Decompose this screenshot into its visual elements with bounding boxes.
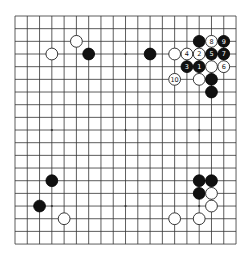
black-stone[interactable] <box>193 187 205 199</box>
white-stone[interactable] <box>193 73 205 85</box>
white-stone[interactable] <box>71 35 83 47</box>
white-stone-disc <box>206 187 218 199</box>
move-number-label: 10 <box>170 76 178 84</box>
white-stone-disc <box>206 61 218 73</box>
black-stone[interactable] <box>206 175 218 187</box>
black-stone[interactable] <box>206 86 218 98</box>
star-point <box>124 53 126 55</box>
black-stone[interactable] <box>46 175 58 187</box>
move-number-label: 9 <box>222 38 226 46</box>
star-point <box>198 129 200 131</box>
black-stone-disc <box>34 200 46 212</box>
star-point <box>51 129 53 131</box>
white-stone-disc <box>193 213 205 225</box>
white-stone[interactable] <box>206 187 218 199</box>
white-stone-disc <box>206 200 218 212</box>
white-stone-disc <box>193 73 205 85</box>
black-stone-disc <box>83 48 95 60</box>
white-stone[interactable] <box>193 213 205 225</box>
white-stone-disc <box>169 213 181 225</box>
white-stone[interactable] <box>58 213 70 225</box>
black-stone[interactable] <box>34 200 46 212</box>
white-stone[interactable]: 6 <box>218 61 230 73</box>
move-number-label: 6 <box>222 63 226 71</box>
black-stone[interactable]: 1 <box>193 61 205 73</box>
black-stone[interactable] <box>193 175 205 187</box>
move-number-label: 8 <box>209 38 213 46</box>
white-stone[interactable] <box>169 48 181 60</box>
white-stone[interactable]: 10 <box>169 73 181 85</box>
black-stone-disc <box>144 48 156 60</box>
white-stone-disc <box>46 48 58 60</box>
black-stone[interactable]: 5 <box>206 48 218 60</box>
white-stone-disc <box>71 35 83 47</box>
white-stone[interactable] <box>206 61 218 73</box>
white-stone[interactable]: 4 <box>181 48 193 60</box>
white-stone[interactable] <box>206 200 218 212</box>
star-point <box>124 205 126 207</box>
white-stone-disc <box>58 213 70 225</box>
white-stone[interactable]: 2 <box>193 48 205 60</box>
black-stone-disc <box>193 35 205 47</box>
star-point <box>198 205 200 207</box>
black-stone-disc <box>206 86 218 98</box>
black-stone[interactable] <box>206 73 218 85</box>
black-stone[interactable] <box>193 35 205 47</box>
white-stone[interactable] <box>46 48 58 60</box>
move-number-label: 5 <box>209 50 213 58</box>
move-number-label: 4 <box>185 50 189 58</box>
black-stone-disc <box>193 175 205 187</box>
black-stone[interactable] <box>83 48 95 60</box>
white-stone[interactable] <box>169 213 181 225</box>
black-stone-disc <box>193 187 205 199</box>
black-stone-disc <box>206 175 218 187</box>
black-stone[interactable]: 3 <box>181 61 193 73</box>
black-stone[interactable] <box>144 48 156 60</box>
black-stone[interactable]: 9 <box>218 35 230 47</box>
move-number-label: 3 <box>185 63 189 71</box>
white-stone[interactable]: 8 <box>206 35 218 47</box>
black-stone[interactable]: 7 <box>218 48 230 60</box>
white-stone-disc <box>169 48 181 60</box>
go-board[interactable]: 89425731610 <box>0 0 250 258</box>
black-stone-disc <box>206 73 218 85</box>
move-number-label: 7 <box>222 50 226 58</box>
move-number-label: 2 <box>197 50 201 58</box>
black-stone-disc <box>46 175 58 187</box>
move-number-label: 1 <box>197 63 201 71</box>
star-point <box>51 205 53 207</box>
star-point <box>124 129 126 131</box>
